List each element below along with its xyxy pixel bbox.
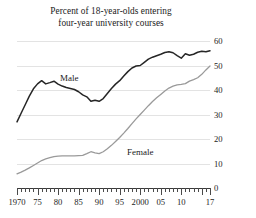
x-tick-1988 <box>91 188 92 192</box>
series-lines <box>17 41 210 188</box>
x-axis-label-1980: 80 <box>54 197 63 207</box>
x-tick-1997 <box>128 188 129 192</box>
chart-title-line-2: four-year university courses <box>0 18 222 30</box>
x-axis-label-1970: 1970 <box>8 197 25 207</box>
x-tick-1985 <box>79 188 80 195</box>
x-tick-1999 <box>136 188 137 192</box>
y-axis-label-50: 50 <box>214 61 223 71</box>
x-tick-1992 <box>107 188 108 192</box>
x-tick-1970 <box>17 188 18 195</box>
plot-area <box>17 41 210 188</box>
x-tick-2010 <box>181 188 182 195</box>
x-axis-label-1975: 75 <box>33 197 42 207</box>
x-tick-1995 <box>120 188 121 195</box>
series-label-male: Male <box>60 73 79 83</box>
x-tick-2001 <box>144 188 145 192</box>
x-tick-1971 <box>21 188 22 192</box>
x-tick-1998 <box>132 188 133 192</box>
x-tick-2004 <box>157 188 158 192</box>
x-tick-2007 <box>169 188 170 192</box>
x-tick-1979 <box>54 188 55 192</box>
x-tick-1980 <box>58 188 59 195</box>
x-tick-2005 <box>161 188 162 195</box>
x-tick-2017 <box>210 188 211 195</box>
x-tick-2009 <box>177 188 178 192</box>
y-axis-label-0: 0 <box>214 183 218 193</box>
x-tick-2013 <box>194 188 195 192</box>
x-tick-2011 <box>185 188 186 192</box>
x-tick-1993 <box>111 188 112 192</box>
y-axis-label-10: 10 <box>214 159 223 169</box>
y-axis-label-40: 40 <box>214 85 223 95</box>
x-tick-1994 <box>116 188 117 192</box>
x-axis-label-2010: 10 <box>177 197 186 207</box>
x-tick-1991 <box>103 188 104 192</box>
chart-title: Percent of 18-year-olds entering four-ye… <box>0 6 222 29</box>
x-tick-1996 <box>124 188 125 192</box>
x-tick-1972 <box>25 188 26 192</box>
y-axis-label-30: 30 <box>214 110 223 120</box>
x-axis-label-2017: 17 <box>206 197 215 207</box>
x-tick-1984 <box>74 188 75 192</box>
x-tick-1982 <box>66 188 67 192</box>
x-tick-2002 <box>148 188 149 192</box>
x-tick-2015 <box>202 188 203 195</box>
x-axis-ticks <box>17 188 210 195</box>
chart-container: Percent of 18-year-olds entering four-ye… <box>0 0 256 218</box>
y-axis-label-20: 20 <box>214 134 223 144</box>
x-tick-1986 <box>83 188 84 192</box>
series-label-female: Female <box>127 147 154 157</box>
x-tick-1983 <box>70 188 71 192</box>
y-axis-label-60: 60 <box>214 36 223 46</box>
x-tick-2008 <box>173 188 174 192</box>
line-series-female <box>17 66 210 174</box>
x-tick-1975 <box>38 188 39 195</box>
x-tick-1973 <box>29 188 30 192</box>
x-tick-1976 <box>42 188 43 192</box>
x-tick-1989 <box>95 188 96 192</box>
chart-title-line-1: Percent of 18-year-olds entering <box>0 6 222 18</box>
x-axis-label-1990: 90 <box>95 197 104 207</box>
x-tick-1974 <box>33 188 34 192</box>
x-axis-label-2000: 2000 <box>132 197 149 207</box>
x-tick-2014 <box>198 188 199 192</box>
x-tick-1977 <box>46 188 47 192</box>
x-tick-1987 <box>87 188 88 192</box>
x-tick-2012 <box>189 188 190 192</box>
x-tick-2003 <box>153 188 154 192</box>
x-tick-2016 <box>206 188 207 192</box>
x-axis-label-1995: 95 <box>115 197 124 207</box>
x-tick-1981 <box>62 188 63 192</box>
x-tick-2006 <box>165 188 166 192</box>
x-tick-1990 <box>99 188 100 195</box>
x-axis-label-1985: 85 <box>74 197 83 207</box>
x-tick-1978 <box>50 188 51 192</box>
x-tick-2000 <box>140 188 141 195</box>
line-series-male <box>17 51 210 122</box>
x-axis-label-2005: 05 <box>156 197 165 207</box>
